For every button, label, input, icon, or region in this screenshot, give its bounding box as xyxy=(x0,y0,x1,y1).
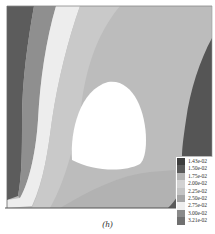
legend-swatch xyxy=(177,195,185,202)
legend-row: 2.75e-02 xyxy=(177,202,215,209)
figure-caption: (h) xyxy=(0,219,215,229)
legend-swatch xyxy=(177,158,185,165)
legend-row: 3.00e-02 xyxy=(177,210,215,217)
color-legend: 1.43e-02 1.50e-02 1.75e-02 2.00e-02 2.25… xyxy=(177,158,215,225)
legend-label: 1.43e-02 xyxy=(188,158,207,165)
legend-label: 1.50e-02 xyxy=(188,165,207,172)
legend-swatch xyxy=(177,210,185,217)
legend-row: 1.75e-02 xyxy=(177,173,215,180)
legend-swatch xyxy=(177,188,185,195)
legend-swatch xyxy=(177,202,185,209)
legend-swatch xyxy=(177,173,185,180)
legend-row: 2.50e-02 xyxy=(177,195,215,202)
legend-label: 2.50e-02 xyxy=(188,195,207,202)
legend-row: 2.00e-02 xyxy=(177,180,215,187)
legend-row: 2.25e-02 xyxy=(177,188,215,195)
legend-label: 2.00e-02 xyxy=(188,180,207,187)
legend-label: 2.75e-02 xyxy=(188,202,207,209)
legend-row: 1.50e-02 xyxy=(177,165,215,172)
legend-label: 1.75e-02 xyxy=(188,173,207,180)
legend-label: 3.00e-02 xyxy=(188,210,207,217)
legend-label: 2.25e-02 xyxy=(188,188,207,195)
legend-swatch xyxy=(177,165,185,172)
legend-row: 1.43e-02 xyxy=(177,158,215,165)
legend-swatch xyxy=(177,180,185,187)
